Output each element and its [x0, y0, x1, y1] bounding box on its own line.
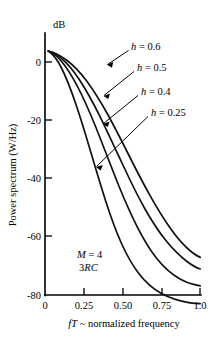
y-axis-ticks: [45, 62, 52, 236]
y-tick-label-m20: -20: [27, 115, 41, 126]
curve-h-0-25: [48, 51, 200, 304]
x-axis-ticks: [84, 288, 200, 295]
db-unit-label: dB: [53, 19, 65, 30]
curve-label-h-0-25: h = 0.25: [151, 107, 186, 118]
leader-h-0-5: [104, 72, 135, 100]
annotation-filter: 3RC: [79, 262, 99, 273]
leader-h-0-6: [107, 51, 129, 68]
x-tick-label-10: 1.0: [193, 300, 206, 311]
x-tick-label-0: 0: [42, 300, 47, 311]
curve-label-h-0-6: h = 0.6: [131, 41, 161, 52]
x-axis-title: fT ~ normalized frequency: [68, 318, 180, 329]
x-axis-title-rest: ~ normalized frequency: [77, 318, 181, 329]
x-tick-label-025: 0.25: [75, 300, 93, 311]
arrowhead-h-0-5: [104, 94, 111, 100]
curve-label-h-0-4: h = 0.4: [141, 86, 171, 97]
x-tick-label-050: 0.50: [114, 300, 132, 311]
annotation-filter-italic: RC: [83, 262, 98, 273]
y-tick-label-m80: -80: [27, 290, 41, 301]
y-tick-label-m40: -40: [27, 173, 41, 184]
x-tick-label-075: 0.75: [153, 300, 171, 311]
leader-h-0-4: [103, 96, 138, 128]
annotation-m-rest: = 4: [86, 249, 103, 260]
curve-h-0-6: [48, 51, 200, 257]
curve-label-h-0-5: h = 0.5: [137, 62, 167, 73]
y-axis-title: Power spectrum (W/Hz): [7, 123, 19, 226]
power-spectrum-chart: 0 -20 -40 -60 -80 0 0.25 0.50 0.75 1.0 d…: [0, 0, 216, 352]
annotation-m-value: M = 4: [76, 249, 103, 260]
y-tick-label-0: 0: [36, 57, 41, 68]
y-tick-label-m60: -60: [27, 231, 41, 242]
figure-panel: 0 -20 -40 -60 -80 0 0.25 0.50 0.75 1.0 d…: [0, 0, 216, 352]
